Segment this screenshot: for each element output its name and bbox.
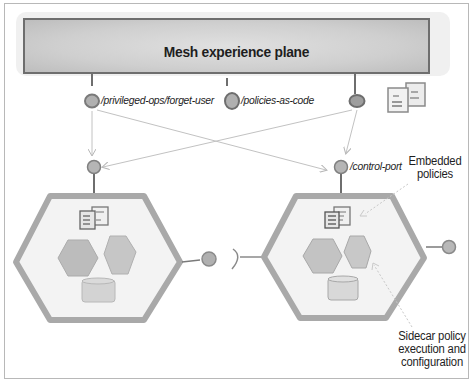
left-sidecar-connector [182, 252, 216, 266]
endpoint-label-forget-user: /privileged-ops/forget-user [101, 95, 214, 107]
plane-title: Mesh experience plane [19, 44, 454, 59]
endpoint-third-port [350, 95, 365, 107]
endpoint-policies-as-code-port [225, 93, 239, 109]
sidecar-annotation: Sidecar policy execution and configurati… [394, 330, 470, 369]
right-database-icon [328, 276, 358, 300]
plane-stems [92, 74, 355, 94]
right-service-node [264, 196, 424, 318]
left-database-icon [82, 278, 115, 302]
embedded-policies-annotation: Embedded policies [404, 155, 467, 181]
endpoint-label-policies-as-code: /policies-as-code [241, 95, 314, 107]
left-service-node [16, 196, 180, 320]
sidecar-line3: configuration [394, 356, 470, 369]
control-port-label: /control-port [350, 161, 402, 173]
policy-documents-icon [388, 83, 425, 112]
socket-connector [232, 249, 262, 269]
endpoint-forget-user-port [85, 95, 99, 108]
left-control-port [88, 161, 101, 196]
embedded-policies-line2: policies [404, 168, 467, 181]
right-sidecar-connector [426, 241, 456, 254]
right-control-port [335, 161, 348, 196]
connection-arrows [92, 110, 357, 170]
